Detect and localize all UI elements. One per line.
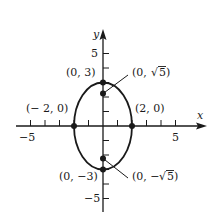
svg-text:): )	[174, 170, 178, 183]
point-focus-bottom	[100, 155, 106, 161]
svg-text:5: 5	[167, 170, 174, 183]
y-axis	[100, 29, 110, 212]
point-co-vertex-left	[71, 123, 77, 129]
label-co-vertex-right: (2, 0)	[135, 102, 165, 115]
focus-top-leader	[103, 75, 128, 94]
label-vertex-bottom: (0, −3)	[59, 170, 98, 183]
label-vertex-top: (0, 3)	[66, 66, 96, 79]
point-co-vertex-right	[129, 123, 135, 129]
svg-text:(0,: (0,	[132, 66, 147, 79]
point-vertex-top	[100, 80, 106, 86]
x-tick-label-neg5: −5	[19, 131, 35, 144]
svg-text:): )	[166, 66, 170, 79]
svg-text:(0, −: (0, −	[132, 170, 160, 183]
sqrt-symbol: √	[151, 66, 159, 79]
x-tick-label-5: 5	[172, 131, 179, 144]
focus-bottom-leader	[103, 158, 128, 178]
x-axis	[16, 120, 207, 130]
svg-text:5: 5	[159, 66, 166, 79]
label-focus-bottom: (0, − √ 5 )	[132, 170, 178, 183]
label-co-vertex-left: (− 2, 0)	[26, 102, 68, 115]
point-vertex-bottom	[100, 167, 106, 173]
point-focus-top	[100, 91, 106, 97]
y-axis-label: y	[92, 28, 100, 41]
ellipse-diagram: y x 5 −5 −5 5 (0, 3) (0, −3) (− 2, 0) (2…	[0, 0, 212, 223]
y-tick-label-5: 5	[91, 47, 98, 60]
x-axis-label: x	[197, 109, 204, 122]
label-focus-top: (0, √ 5 )	[132, 66, 170, 79]
y-tick-label-neg5: −5	[84, 192, 100, 205]
sqrt-symbol: √	[159, 170, 167, 183]
